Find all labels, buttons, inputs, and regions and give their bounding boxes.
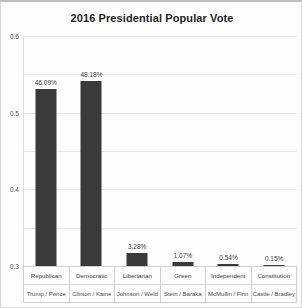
chart-title: 2016 Presidential Popular Vote [1, 12, 302, 24]
bar-slot: 1.07% [160, 36, 206, 266]
category-sublabel: Clinton / Kaine [69, 285, 115, 303]
category-sublabel: Stein / Baraka [160, 285, 206, 303]
bar-value-label: 46.09% [35, 79, 57, 86]
category-label: Green [160, 267, 206, 285]
bar-value-label: 3.28% [128, 243, 146, 250]
ticket-label-row: Trump / PenceClinton / KaineJohnson / We… [24, 285, 297, 303]
chart-container: 2016 Presidential Popular Vote 00.10.20.… [0, 0, 302, 308]
bar-value-label: 1.07% [174, 252, 192, 259]
category-axis-table: RepublicanDemocraticLibertarianGreenInde… [23, 266, 297, 303]
bar[interactable] [81, 81, 102, 266]
bar-value-label: 0.15% [265, 255, 283, 262]
category-label: Republican [24, 267, 70, 285]
bar[interactable] [35, 89, 56, 266]
bar-value-label: 0.54% [219, 254, 237, 261]
y-axis-tick-label: 0.6 [10, 33, 19, 40]
category-sublabel: McMullin / Finn [206, 285, 252, 303]
y-axis-tick-label: 0.3 [10, 263, 19, 270]
category-label: Independent [206, 267, 252, 285]
category-sublabel: Johnson / Weld [115, 285, 161, 303]
plot-area: 00.10.20.30.40.50.6 46.09%48.18%3.28%1.0… [23, 36, 297, 266]
bar-slot: 48.18% [69, 36, 115, 266]
y-axis-tick-label: 0.4 [10, 186, 19, 193]
bar-slot: 46.09% [23, 36, 69, 266]
bar-slot: 0.15% [251, 36, 297, 266]
bar-value-label: 48.18% [80, 71, 102, 78]
bar-slot: 3.28% [114, 36, 160, 266]
category-sublabel: Trump / Pence [24, 285, 70, 303]
bar[interactable] [127, 253, 148, 266]
category-label: Democratic [69, 267, 115, 285]
category-sublabel: Castle / Bradley [251, 285, 297, 303]
category-label: Libertarian [115, 267, 161, 285]
bar-slot: 0.54% [206, 36, 252, 266]
party-label-row: RepublicanDemocraticLibertarianGreenInde… [24, 267, 297, 285]
category-label: Constitution [251, 267, 297, 285]
y-axis-tick-label: 0.5 [10, 109, 19, 116]
